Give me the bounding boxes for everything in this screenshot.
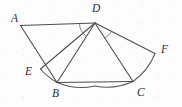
vertex-label-e: E (25, 66, 32, 78)
geometry-figure-container: A D F E B C (0, 0, 182, 107)
vertex-label-f: F (161, 44, 168, 56)
segment-d-b (57, 23, 95, 83)
geometry-figure-svg (0, 0, 182, 107)
vertex-label-d: D (92, 3, 100, 15)
vertex-label-a: A (11, 13, 18, 25)
segment-d-c (95, 23, 133, 82)
angle-mark-c-d-f (105, 31, 112, 38)
segment-d-f (95, 23, 155, 54)
segment-a-d (21, 23, 96, 26)
vertex-label-c: C (137, 87, 145, 99)
segment-d-e (41, 23, 96, 69)
segment-b-c (57, 82, 133, 83)
vertex-label-b: B (52, 88, 59, 100)
